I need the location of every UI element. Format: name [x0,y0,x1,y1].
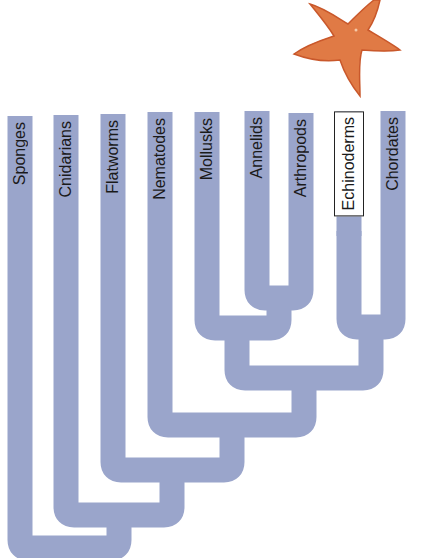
starfish-illustration [282,0,402,100]
starfish-icon [294,0,400,96]
branch-segment [257,111,301,298]
